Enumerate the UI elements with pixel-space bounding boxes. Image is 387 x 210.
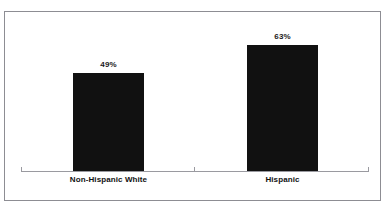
plot-area: 49% 63% Non-Hispanic White Hispanic [5, 12, 380, 200]
chart-screenshot: 49% 63% Non-Hispanic White Hispanic [0, 0, 387, 210]
bar-value-label: 49% [73, 60, 144, 69]
bar-value-label: 63% [247, 32, 318, 41]
category-label-non-hispanic-white: Non-Hispanic White [38, 175, 179, 184]
x-axis-left-cap [21, 167, 22, 172]
x-axis-right-cap [368, 167, 369, 172]
x-axis-category-divider-tick [194, 167, 195, 172]
bar-non-hispanic-white [73, 73, 144, 171]
bar-hispanic [247, 45, 318, 171]
category-label-hispanic: Hispanic [212, 175, 353, 184]
cropped-title-remnant [0, 0, 387, 9]
chart-frame: 49% 63% Non-Hispanic White Hispanic [4, 11, 381, 201]
